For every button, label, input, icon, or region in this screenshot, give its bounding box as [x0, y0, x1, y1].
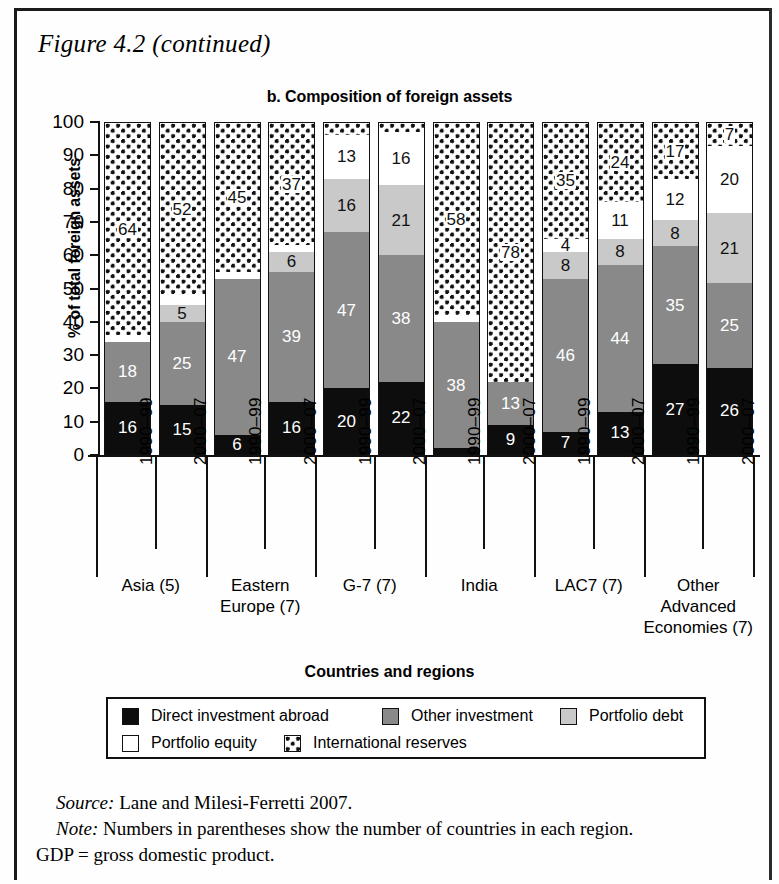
bar-segment-reserves[interactable]: 45 [214, 122, 261, 272]
bar-segment-value: 7 [724, 126, 735, 143]
bar-segment-pequity[interactable]: 12 [652, 179, 699, 219]
bar-segment-pdebt[interactable]: 8 [542, 252, 589, 279]
bar-segment-reserves[interactable]: 24 [597, 122, 644, 202]
group-label-line: Other [634, 575, 764, 596]
bar-segment-value: 26 [720, 402, 739, 419]
x-axis-inner-tick [483, 457, 485, 549]
bar-segment-pdebt[interactable]: 5 [159, 305, 206, 322]
x-axis-period-label: 1990–99 [575, 397, 595, 465]
abbreviation-note: GDP = gross domestic product. [36, 842, 751, 868]
bar-segment-pequity[interactable]: 11 [597, 202, 644, 239]
bar-segment-value: 39 [282, 328, 301, 345]
bar-segment-value: 78 [500, 244, 521, 261]
x-axis-period-label: 2000–07 [739, 397, 759, 465]
x-axis-period-label: 1990–99 [684, 397, 704, 465]
bar-segment-other[interactable]: 18 [104, 342, 151, 402]
bar-segment-value: 4 [561, 239, 570, 252]
legend-item-other[interactable]: Other investment [382, 707, 533, 725]
chart-legend: Direct investment abroadOther investment… [106, 697, 706, 759]
bar-segment-value: 6 [232, 436, 241, 453]
x-axis-group-divider [96, 457, 98, 577]
bar-segment-value: 47 [337, 302, 356, 319]
bar-segment-other[interactable]: 44 [597, 265, 644, 412]
bar-segment-value: 22 [392, 409, 411, 426]
note-line: Note: Numbers in parentheses show the nu… [36, 816, 751, 842]
bar-segment-pdebt[interactable]: 21 [378, 185, 425, 255]
y-axis-tick-label: 20 [28, 378, 84, 397]
bar-segment-other[interactable]: 25 [159, 322, 206, 405]
bar-segment-reserves[interactable] [378, 122, 425, 132]
bar-segment-pdebt[interactable]: 6 [268, 252, 315, 272]
x-axis-period-label: 2000–07 [520, 397, 540, 465]
bar-segment-reserves[interactable]: 17 [652, 122, 699, 179]
legend-item-pdebt[interactable]: Portfolio debt [560, 707, 683, 725]
bar-segment-pequity[interactable] [159, 295, 206, 305]
bar-segment-reserves[interactable]: 64 [104, 122, 151, 335]
x-axis-group-label: OtherAdvancedEconomies (7) [634, 575, 764, 638]
y-axis-tick [90, 321, 99, 323]
bar-segment-pdebt[interactable]: 8 [652, 220, 699, 247]
y-axis-tick-labels: 0102030405060708090100 [26, 0, 84, 884]
bar-segment-value: 24 [610, 154, 631, 171]
bar-segment-pequity[interactable]: 13 [323, 135, 370, 178]
bar-segment-value: 58 [446, 211, 467, 228]
legend-item-reserves[interactable]: International reserves [284, 734, 467, 752]
bar-segment-value: 16 [337, 197, 356, 214]
bar-segment-pequity[interactable] [104, 335, 151, 342]
bar-segment-other[interactable]: 39 [268, 272, 315, 402]
bar-segment-reserves[interactable] [323, 122, 370, 135]
page-border-right [769, 8, 772, 880]
bar-segment-reserves[interactable]: 37 [268, 122, 315, 245]
bar-segment-value: 13 [611, 424, 630, 441]
y-axis-tick-label: 30 [28, 345, 84, 364]
bar-segment-other[interactable]: 35 [652, 246, 699, 364]
bar-segment-pequity[interactable] [214, 272, 261, 279]
x-axis-period-label: 2000–07 [301, 397, 321, 465]
y-axis-tick [90, 288, 99, 290]
legend-item-direct[interactable]: Direct investment abroad [122, 707, 329, 725]
bar-segment-value: 16 [118, 419, 137, 436]
bar-segment-value: 7 [561, 434, 570, 451]
bar-segment-reserves[interactable]: 52 [159, 122, 206, 295]
bar-segment-reserves[interactable]: 7 [706, 122, 753, 146]
bar-segment-pequity[interactable] [433, 315, 480, 322]
legend-swatch-pequity-icon [122, 735, 139, 752]
bar-segment-reserves[interactable]: 35 [542, 122, 589, 239]
bar-segment-value: 13 [501, 395, 520, 412]
bar-segment-pdebt[interactable]: 16 [323, 179, 370, 232]
y-axis-tick-label: 80 [28, 179, 84, 198]
legend-label: Other investment [411, 707, 533, 725]
bar-segment-reserves[interactable]: 58 [433, 122, 480, 315]
bar-segment-pdebt[interactable]: 8 [597, 239, 644, 266]
bar-segment-value: 25 [173, 355, 192, 372]
x-axis-inner-tick [155, 457, 157, 549]
bar-segment-value: 13 [337, 148, 356, 165]
legend-item-pequity[interactable]: Portfolio equity [122, 734, 257, 752]
group-label-line: Europe (7) [196, 596, 326, 617]
bar-segment-value: 8 [670, 225, 679, 242]
bar-segment-pequity[interactable] [268, 245, 315, 252]
legend-label: Portfolio equity [151, 734, 257, 752]
bar-segment-value: 11 [611, 212, 629, 229]
x-axis-inner-tick [593, 457, 595, 549]
figure-page: Figure 4.2 (continued) b. Composition of… [0, 0, 779, 884]
x-axis-group-divider [206, 457, 208, 577]
bar-segment-pdebt[interactable]: 21 [706, 213, 753, 284]
bar-segment-reserves[interactable]: 78 [487, 122, 534, 382]
bar-segment-value: 38 [447, 377, 466, 394]
bar-segment-other[interactable]: 47 [323, 232, 370, 389]
bar-segment-value: 25 [720, 317, 739, 334]
note-label: Note: [56, 818, 98, 839]
y-axis-tick-label: 100 [28, 112, 84, 131]
bar-segment-pequity[interactable]: 4 [542, 239, 589, 252]
bar-segment-pequity[interactable]: 20 [706, 146, 753, 213]
y-axis-tick [90, 421, 99, 423]
x-axis-group-divider [534, 457, 536, 577]
bar-segment-value: 8 [615, 243, 624, 260]
bar-segment-other[interactable]: 38 [378, 255, 425, 382]
bar-segment-value: 8 [561, 257, 570, 274]
bar-segment-other[interactable]: 25 [706, 283, 753, 367]
bar-segment-pequity[interactable]: 16 [378, 132, 425, 185]
x-axis-period-label: 1990–99 [137, 397, 157, 465]
y-axis-tick [90, 387, 99, 389]
